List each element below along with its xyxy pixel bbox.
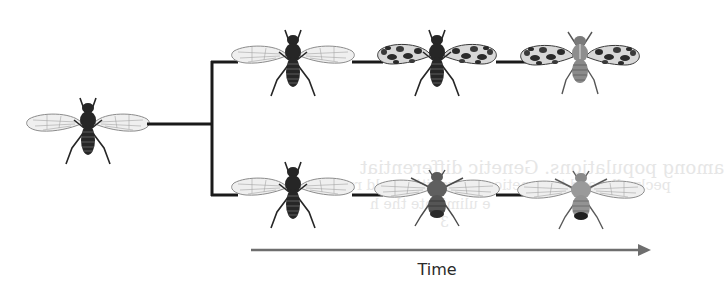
ancestor-fly-icon (27, 98, 150, 164)
branch-connector (147, 61, 238, 196)
top-lineage-stage2-fly-icon (378, 30, 497, 96)
bottom-lineage-stage2-fly-icon (375, 170, 500, 226)
top-lineage-stage1-fly-icon (232, 30, 355, 96)
bottom-lineage-stage1-fly-icon (232, 162, 355, 228)
bottom-lineage-stage3-fly-icon (518, 171, 645, 229)
time-arrow-icon (251, 244, 651, 256)
top-lineage-stage3-fly-icon (521, 32, 640, 94)
time-axis-label: Time (397, 260, 477, 279)
